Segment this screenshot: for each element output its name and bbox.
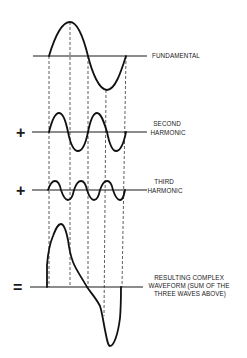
third-harmonic-row: + THIRD HARMONIC xyxy=(16,178,183,200)
second-harmonic-label: SECOND HARMONIC xyxy=(150,120,185,136)
guide-line-5 xyxy=(122,56,126,287)
result-row: = RESULTING COMPLEX WAVEFORM (SUM OF THE… xyxy=(13,224,231,346)
fundamental-label: FUNDAMENTAL xyxy=(152,52,200,59)
second-harmonic-row: + SECOND HARMONIC xyxy=(16,113,186,151)
alignment-guides xyxy=(49,22,126,316)
result-label: RESULTING COMPLEX WAVEFORM (SUM OF THE T… xyxy=(149,274,232,298)
fundamental-row: FUNDAMENTAL xyxy=(33,22,200,90)
harmonic-synthesis-diagram: FUNDAMENTAL + SECOND HARMONIC + THIRD HA… xyxy=(0,0,247,358)
equals-operator: = xyxy=(13,279,22,296)
plus-operator: + xyxy=(16,124,25,141)
third-harmonic-label: THIRD HARMONIC xyxy=(147,178,182,194)
result-complex-wave xyxy=(47,224,121,346)
plus-operator: + xyxy=(16,182,25,199)
